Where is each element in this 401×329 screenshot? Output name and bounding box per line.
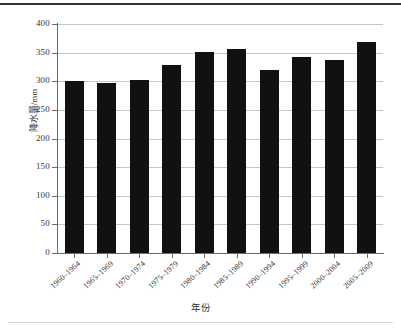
bar [227,49,246,253]
bar [65,81,84,253]
y-tick-label: 50 [0,218,50,228]
bar [130,80,149,253]
y-tick-mark [52,253,57,254]
bar [162,65,181,253]
page-top-border [0,3,401,5]
y-tick-label: 300 [0,75,50,85]
bar [260,70,279,253]
x-tick-mark [367,254,368,258]
y-tick-mark [52,24,57,25]
x-tick-mark [237,254,238,258]
y-tick-label: 150 [0,161,50,171]
y-tick-mark [52,139,57,140]
y-axis-title: 降水量/mm [27,76,40,146]
x-tick-mark [74,254,75,258]
plot-area [58,24,383,253]
x-axis-title: 年份 [0,300,401,314]
x-tick-mark [269,254,270,258]
bar [292,57,311,253]
bar [97,83,116,253]
x-tick-mark [107,254,108,258]
bar [357,42,376,253]
y-tick-mark [52,196,57,197]
y-tick-mark [52,81,57,82]
x-tick-mark [204,254,205,258]
y-tick-mark [52,167,57,168]
y-tick-mark [52,53,57,54]
y-tick-mark [52,224,57,225]
x-tick-mark [334,254,335,258]
y-tick-label: 350 [0,47,50,57]
x-tick-mark [172,254,173,258]
x-tick-mark [139,254,140,258]
y-tick-label: 400 [0,18,50,28]
y-tick-label: 100 [0,190,50,200]
precipitation-bar-chart: 050100150200250300350400 降水量/mm 1960–196… [0,0,401,329]
y-tick-mark [52,110,57,111]
gridline [58,53,383,54]
y-tick-label: 250 [0,104,50,114]
bar [195,52,214,253]
y-tick-label: 200 [0,133,50,143]
page-bottom-border [8,322,393,323]
gridline [58,24,383,25]
y-tick-label: 0 [0,247,50,257]
bar [325,60,344,254]
x-tick-mark [302,254,303,258]
